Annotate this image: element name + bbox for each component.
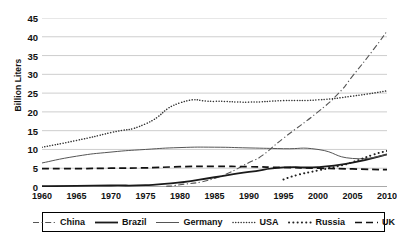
y-axis-tick-label: 20 <box>0 106 38 117</box>
legend-item-russia[interactable]: Russia <box>288 217 346 227</box>
plot-area: 1960196519701975198019851990199520002005… <box>42 18 387 187</box>
legend-label: China <box>60 217 85 227</box>
legend-label: UK <box>382 217 395 227</box>
legend-label: Germany <box>183 217 222 227</box>
chart-svg <box>42 18 387 187</box>
y-axis-tick-label: 10 <box>0 144 38 155</box>
x-axis-tick-label: 1970 <box>101 191 121 201</box>
y-axis-tick-label: 40 <box>0 31 38 42</box>
legend-swatch-uk <box>354 218 379 227</box>
y-axis-tick-label: 5 <box>0 163 38 174</box>
x-axis-tick-label: 2010 <box>377 191 397 201</box>
legend-item-uk[interactable]: UK <box>354 217 395 227</box>
legend-label: Brazil <box>122 217 147 227</box>
legend-swatch-china <box>32 218 57 227</box>
x-axis-tick-label: 1965 <box>66 191 86 201</box>
y-axis-tick-label: 35 <box>0 50 38 61</box>
series-line-usa <box>42 91 387 147</box>
x-axis-tick-label: 2005 <box>342 191 362 201</box>
legend-item-china[interactable]: China <box>32 217 85 227</box>
x-axis-tick-label: 1980 <box>170 191 190 201</box>
y-axis-tick-label: 30 <box>0 69 38 80</box>
legend-item-germany[interactable]: Germany <box>155 217 222 227</box>
y-axis-tick-label: 0 <box>0 182 38 193</box>
series-line-brazil <box>42 154 387 186</box>
legend-label: USA <box>260 217 279 227</box>
y-axis-tick-label: 45 <box>0 13 38 24</box>
legend-label: Russia <box>316 217 346 227</box>
legend-swatch-russia <box>288 218 313 227</box>
legend-swatch-germany <box>155 218 180 227</box>
y-axis-tick-label: 25 <box>0 88 38 99</box>
chart-figure: Billion Liters 1960196519701975198019851… <box>0 0 397 243</box>
x-axis-tick-label: 1975 <box>135 191 155 201</box>
x-axis-tick-label: 1960 <box>32 191 52 201</box>
x-axis-tick-label: 2000 <box>308 191 328 201</box>
legend-swatch-brazil <box>94 218 119 227</box>
legend-swatch-usa <box>232 218 257 227</box>
x-axis-tick-label: 1995 <box>273 191 293 201</box>
legend-item-usa[interactable]: USA <box>232 217 279 227</box>
legend-item-brazil[interactable]: Brazil <box>94 217 147 227</box>
chart-legend: ChinaBrazilGermanyUSARussiaUK <box>42 212 385 232</box>
x-axis-tick-label: 1990 <box>239 191 259 201</box>
x-axis-tick-label: 1985 <box>204 191 224 201</box>
y-axis-tick-label: 15 <box>0 125 38 136</box>
